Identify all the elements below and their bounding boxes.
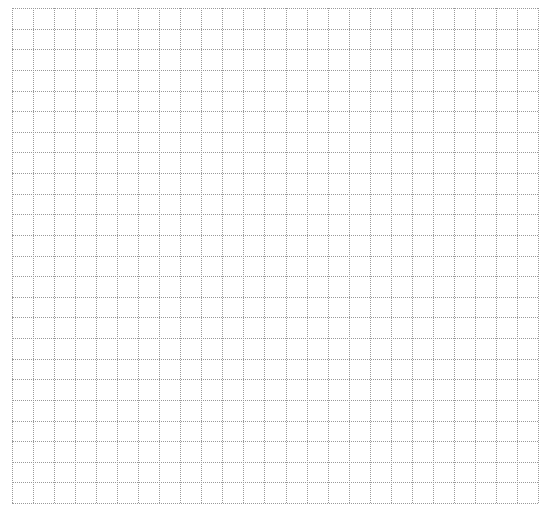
grid-horizontal-line bbox=[12, 91, 538, 92]
grid-vertical-line bbox=[96, 8, 97, 503]
grid-vertical-line bbox=[54, 8, 55, 503]
grid-horizontal-line bbox=[12, 194, 538, 195]
grid-vertical-line bbox=[454, 8, 455, 503]
grid-vertical-line bbox=[12, 8, 13, 503]
grid-horizontal-line bbox=[12, 70, 538, 71]
grid-horizontal-line bbox=[12, 482, 538, 483]
grid-horizontal-line bbox=[12, 338, 538, 339]
grid-horizontal-line bbox=[12, 462, 538, 463]
grid-vertical-line bbox=[391, 8, 392, 503]
grid-vertical-line bbox=[159, 8, 160, 503]
grid-horizontal-line bbox=[12, 503, 538, 504]
grid-horizontal-line bbox=[12, 111, 538, 112]
grid-horizontal-line bbox=[12, 8, 538, 9]
grid-vertical-line bbox=[264, 8, 265, 503]
grid-horizontal-line bbox=[12, 235, 538, 236]
grid-horizontal-line bbox=[12, 297, 538, 298]
grid-vertical-line bbox=[286, 8, 287, 503]
grid-horizontal-line bbox=[12, 173, 538, 174]
grid-horizontal-line bbox=[12, 49, 538, 50]
grid-vertical-line bbox=[412, 8, 413, 503]
grid-vertical-line bbox=[201, 8, 202, 503]
grid-horizontal-line bbox=[12, 214, 538, 215]
grid-vertical-line bbox=[222, 8, 223, 503]
grid-horizontal-line bbox=[12, 256, 538, 257]
grid-vertical-line bbox=[243, 8, 244, 503]
grid-horizontal-line bbox=[12, 132, 538, 133]
grid-vertical-line bbox=[433, 8, 434, 503]
grid-horizontal-line bbox=[12, 441, 538, 442]
grid-vertical-line bbox=[349, 8, 350, 503]
grid-vertical-line bbox=[517, 8, 518, 503]
grid-horizontal-line bbox=[12, 152, 538, 153]
grid-horizontal-line bbox=[12, 400, 538, 401]
grid-vertical-line bbox=[328, 8, 329, 503]
dotted-grid-paper bbox=[12, 8, 538, 503]
grid-horizontal-line bbox=[12, 276, 538, 277]
grid-horizontal-line bbox=[12, 359, 538, 360]
grid-horizontal-line bbox=[12, 421, 538, 422]
grid-vertical-line bbox=[496, 8, 497, 503]
grid-horizontal-line bbox=[12, 317, 538, 318]
grid-vertical-line bbox=[117, 8, 118, 503]
grid-vertical-line bbox=[75, 8, 76, 503]
grid-vertical-line bbox=[138, 8, 139, 503]
grid-vertical-line bbox=[475, 8, 476, 503]
grid-vertical-line bbox=[180, 8, 181, 503]
grid-horizontal-line bbox=[12, 379, 538, 380]
grid-vertical-line bbox=[307, 8, 308, 503]
grid-vertical-line bbox=[538, 8, 539, 503]
grid-vertical-line bbox=[370, 8, 371, 503]
grid-horizontal-line bbox=[12, 29, 538, 30]
grid-vertical-line bbox=[33, 8, 34, 503]
